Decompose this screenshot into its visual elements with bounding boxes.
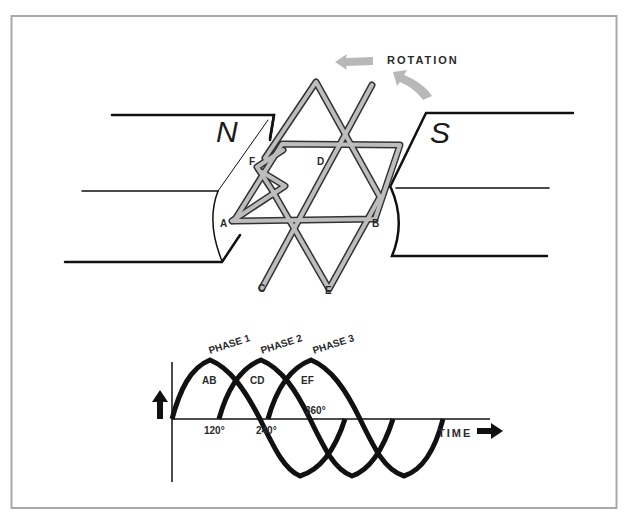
angle-label-120: 120° bbox=[204, 425, 225, 436]
alternator-diagram: N S A B C D E F ROTATION bbox=[0, 0, 638, 516]
phase-2-label: PHASE 2 bbox=[259, 332, 304, 356]
north-pole-magnet bbox=[65, 115, 274, 262]
rotation-label: ROTATION bbox=[387, 54, 459, 66]
terminal-label-f: F bbox=[249, 156, 255, 167]
phase-3-label: PHASE 3 bbox=[311, 332, 356, 356]
terminal-label-d: D bbox=[317, 156, 324, 167]
armature-coils bbox=[232, 82, 400, 289]
angle-label-240: 240° bbox=[256, 425, 277, 436]
terminal-label-c: C bbox=[258, 283, 265, 294]
angle-label-360: 360° bbox=[305, 405, 326, 416]
south-pole-magnet bbox=[390, 113, 573, 256]
coil-label-cd: CD bbox=[250, 375, 264, 386]
coil-label-ab: AB bbox=[202, 375, 216, 386]
terminal-label-b: B bbox=[372, 218, 379, 229]
terminal-label-e: E bbox=[325, 285, 332, 296]
south-pole-label: S bbox=[430, 116, 450, 149]
up-arrow-icon bbox=[152, 390, 168, 419]
phase-1-label: PHASE 1 bbox=[207, 332, 252, 356]
time-label: TIME bbox=[438, 427, 472, 439]
north-pole-label: N bbox=[216, 115, 238, 148]
right-arrow-icon bbox=[477, 423, 503, 439]
terminal-label-a: A bbox=[220, 218, 227, 229]
coil-label-ef: EF bbox=[301, 375, 314, 386]
phase-3-wave bbox=[268, 360, 443, 476]
